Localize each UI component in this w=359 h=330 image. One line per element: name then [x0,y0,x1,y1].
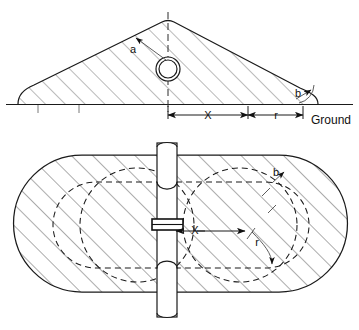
label-x-side: X [204,109,212,121]
technical-drawing-figure: a b X r Ground [0,0,359,330]
bore-inner-circle [159,60,177,78]
label-x-plan: X [191,224,199,236]
label-b-side: b [295,87,301,99]
side-elevation-view: a b X r Ground [0,0,359,140]
shaft-bottom-cap [157,313,177,318]
label-b-plan: b [273,166,279,178]
plan-view: X r b [0,140,359,330]
label-a: a [130,43,137,55]
figure-canvas: a b X r Ground [0,0,359,330]
label-r-side: r [274,109,278,121]
label-ground: Ground [311,113,351,127]
shaft-top-cap [157,143,177,148]
